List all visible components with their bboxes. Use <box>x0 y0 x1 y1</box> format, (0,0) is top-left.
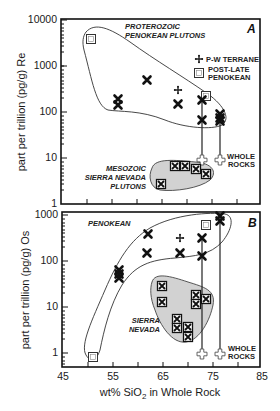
panel-b-y-axis-title: part per trillion (pg/g) Os <box>19 230 31 349</box>
panel-a-ytick-3: 10 <box>45 151 57 163</box>
legend-pw-terrane-label: P-W TERRANE <box>206 55 259 64</box>
xtick-65: 65 <box>157 370 169 382</box>
whole-rock-point <box>215 155 225 165</box>
figure: 10000 1000 100 10 1 part per trillion (p… <box>0 0 280 411</box>
xtick-55: 55 <box>107 370 119 382</box>
penokean-point <box>145 231 152 238</box>
panel-a-ytick-2: 100 <box>39 105 57 117</box>
penokean-point <box>177 250 184 257</box>
panel-a-ytick-1: 1000 <box>34 59 58 71</box>
label-mesozoic: MESOZOIC <box>106 164 147 173</box>
sierra-nevada-point <box>192 291 201 300</box>
sierra-nevada-point <box>173 324 182 333</box>
panel-b-ytick-1: 100 <box>40 254 58 266</box>
sierra-nevada-point <box>158 298 167 307</box>
label-sierra-b: SIERRA <box>132 316 160 325</box>
panel-b-ytick-0: 1000 <box>35 208 59 220</box>
panel-a: 10000 1000 100 10 1 part per trillion (p… <box>15 13 260 209</box>
legend-post-late-penokean-icon <box>195 69 204 78</box>
sierra-nevada-point <box>173 315 182 324</box>
sierra-nevada-point <box>184 333 193 342</box>
sierra-nevada-point <box>192 300 201 309</box>
pw-terrane-point <box>176 234 184 242</box>
panel-a-letter: A <box>246 22 256 36</box>
panel-a-y-ticks <box>61 20 67 190</box>
label-sierra-nevada: SIERRA NEVADA <box>85 173 146 182</box>
legend: P-W TERRANE POST-LATE PENOKEAN <box>195 55 259 82</box>
pw-terrane-point <box>174 86 182 94</box>
panel-a-ytick-0: 10000 <box>28 13 57 25</box>
legend-pw-terrane-icon <box>195 55 203 63</box>
panel-b-ytick-3: 1 <box>52 346 58 358</box>
label-penokean-plutons: PENOKEAN PLUTONS <box>125 31 205 40</box>
label-penokean-b: PENOKEAN <box>88 219 131 228</box>
penokean-point <box>144 77 151 84</box>
penokean-point <box>115 102 122 109</box>
xtick-85: 85 <box>256 370 268 382</box>
x-axis-title: wt% SiO2 in Whole Rock <box>99 386 221 401</box>
panel-b-y-ticks <box>62 215 68 364</box>
whole-rock-point <box>215 349 225 359</box>
panel-b-ytick-2: 10 <box>46 300 58 312</box>
panel-a-y-axis-title: part per trillion (pg/g) Re <box>15 53 27 172</box>
legend-post-late-label-2: PENOKEAN <box>208 73 251 82</box>
post-late-penokean-point <box>87 35 96 44</box>
penokean-point <box>175 101 182 108</box>
panel-b: 1000 100 10 1 part per trillion (pg/g) O… <box>19 208 260 367</box>
label-whole-rocks-a-2: ROCKS <box>228 160 255 169</box>
penokean-point <box>144 250 151 257</box>
sierra-nevada-point <box>202 170 211 179</box>
label-proterozoic: PROTEROZOIC <box>125 22 181 31</box>
sierra-nevada-point <box>157 180 166 189</box>
sierra-nevada-point <box>184 323 193 332</box>
sierra-nevada-point <box>202 295 211 304</box>
whole-rock-point <box>197 349 207 359</box>
label-plutons: PLUTONS <box>110 182 146 191</box>
panel-b-tie-lines <box>202 218 220 351</box>
label-whole-rocks-b-2: ROCKS <box>228 352 255 361</box>
xtick-45: 45 <box>57 370 69 382</box>
xtick-75: 75 <box>207 370 219 382</box>
sierra-nevada-point <box>171 162 180 171</box>
sierra-nevada-point <box>158 282 167 291</box>
post-late-penokean-point <box>202 221 211 230</box>
sierra-nevada-point <box>181 162 190 171</box>
penokean-field-a <box>83 27 226 128</box>
panel-b-letter: B <box>248 216 257 230</box>
sierra-nevada-point <box>192 165 201 174</box>
label-nevada-b: NEVADA <box>129 325 160 334</box>
post-late-penokean-point <box>89 353 98 362</box>
